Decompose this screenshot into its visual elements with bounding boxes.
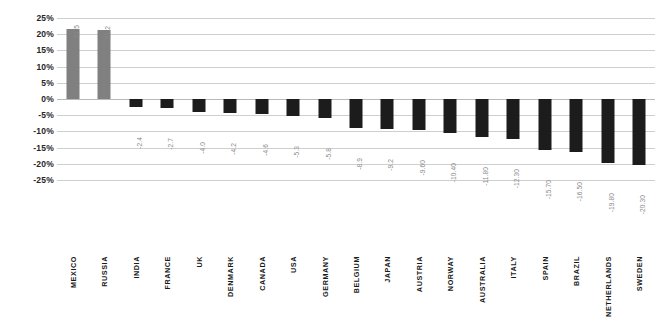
category-slot: GERMANY (309, 184, 340, 259)
bar-slot: -11.80 (466, 18, 497, 180)
bar-value-label: -2.4 (136, 137, 143, 149)
bar-value-label: 21.2 (104, 26, 111, 39)
y-axis-tick-label: -25% (2, 175, 54, 185)
x-axis-category-label: FRANCE (163, 256, 172, 290)
x-axis-category-label: BRAZIL (572, 256, 581, 286)
category-slot: ITALY (498, 184, 529, 259)
category-slot: JAPAN (372, 184, 403, 259)
bar-slot: -4.0 (183, 18, 214, 180)
bar (66, 29, 79, 99)
x-axis-category-label: BELGIUM (351, 256, 360, 293)
bar (287, 99, 300, 116)
x-axis-category-label: SPAIN (540, 256, 549, 280)
x-axis-category-label: AUSTRIA (414, 256, 423, 292)
category-slot: MEXICO (57, 184, 88, 259)
bar (444, 99, 457, 133)
y-axis-tick-label: 20% (2, 29, 54, 39)
category-slot: SPAIN (529, 184, 560, 259)
x-axis-category-label: USA (289, 256, 298, 273)
bar (633, 99, 646, 165)
category-slot: UK (183, 184, 214, 259)
bar-slot: -20.30 (624, 18, 655, 180)
bar-value-label: -5.3 (293, 146, 300, 158)
x-axis-category-label: NETHERLANDS (603, 256, 612, 317)
bar-value-label: 21.5 (73, 25, 80, 38)
bar-slot: -15.70 (529, 18, 560, 180)
x-axis-category-label: ITALY (509, 256, 518, 279)
bar-slot: -9.2 (372, 18, 403, 180)
y-axis-tick-label: 15% (2, 45, 54, 55)
bar-slot: -8.9 (340, 18, 371, 180)
category-slot: AUSTRALIA (466, 184, 497, 259)
y-axis-tick-label: 0% (2, 94, 54, 104)
category-slot: NETHERLANDS (592, 184, 623, 259)
bar-slot: -10.40 (435, 18, 466, 180)
x-axis-category-label: CANADA (257, 256, 266, 291)
category-slot: NORWAY (435, 184, 466, 259)
y-axis-tick-label: 25% (2, 13, 54, 23)
category-slot: CANADA (246, 184, 277, 259)
category-slot: FRANCE (151, 184, 182, 259)
bar-slot: -19.80 (592, 18, 623, 180)
bar (192, 99, 205, 112)
bar-slot: -16.50 (561, 18, 592, 180)
bar-slot: -4.6 (246, 18, 277, 180)
bar-value-label: -4.0 (199, 142, 206, 154)
x-axis-category-label: SWEDEN (635, 256, 644, 291)
gridline (57, 180, 655, 181)
bar (412, 99, 425, 130)
bar-slot: -2.7 (151, 18, 182, 180)
y-axis-tick-label: -10% (2, 126, 54, 136)
x-axis-category-label: RUSSIA (100, 256, 109, 287)
plot-area: 21.521.2-2.4-2.7-4.0-4.2-4.6-5.3-5.8-8.9… (57, 18, 655, 180)
bar (570, 99, 583, 152)
bar-slot: -4.2 (214, 18, 245, 180)
category-slot: BRAZIL (561, 184, 592, 259)
x-axis-category-label: DENMARK (226, 256, 235, 297)
y-axis-tick-label: 10% (2, 62, 54, 72)
bar-value-label: -9.2 (387, 159, 394, 171)
bar (349, 99, 362, 128)
x-axis-category-label: JAPAN (383, 256, 392, 283)
x-axis-category-labels: MEXICORUSSIAINDIAFRANCEUKDENMARKCANADAUS… (57, 184, 655, 259)
y-axis-tick-label: -5% (2, 110, 54, 120)
y-axis-tick-label: 5% (2, 78, 54, 88)
y-axis: 25%20%15%10%5%0%-5%-10%-15%-20%-25% (0, 0, 54, 259)
bar-value-label: -4.2 (230, 143, 237, 155)
bar-value-label: -10.40 (450, 163, 457, 182)
bar (318, 99, 331, 118)
bar (255, 99, 268, 114)
bar-value-label: -2.7 (167, 138, 174, 150)
category-slot: SWEDEN (624, 184, 655, 259)
category-slot: INDIA (120, 184, 151, 259)
bar-value-label: -5.8 (325, 148, 332, 160)
bar (538, 99, 551, 150)
bar-slot: -2.4 (120, 18, 151, 180)
bar-slot: -5.8 (309, 18, 340, 180)
bar-slot: -9.60 (403, 18, 434, 180)
category-slot: BELGIUM (340, 184, 371, 259)
category-slot: RUSSIA (88, 184, 119, 259)
bar (381, 99, 394, 129)
bar (475, 99, 488, 137)
bar (129, 99, 142, 107)
bar (507, 99, 520, 139)
category-slot: AUSTRIA (403, 184, 434, 259)
bar-value-label: -9.60 (419, 160, 426, 176)
bar (161, 99, 174, 108)
x-axis-category-label: UK (194, 256, 203, 268)
bar-value-label: -8.9 (356, 158, 363, 170)
y-axis-tick-label: -20% (2, 159, 54, 169)
y-axis-tick-label: -15% (2, 143, 54, 153)
category-slot: USA (277, 184, 308, 259)
bar-slot: 21.2 (88, 18, 119, 180)
bar-value-label: -4.6 (262, 144, 269, 156)
category-slot: DENMARK (214, 184, 245, 259)
x-axis-category-label: GERMANY (320, 256, 329, 297)
bar-slot: -12.30 (498, 18, 529, 180)
bar (98, 30, 111, 99)
x-axis-category-label: MEXICO (68, 256, 77, 288)
bar (601, 99, 614, 163)
x-axis-category-label: INDIA (131, 256, 140, 279)
